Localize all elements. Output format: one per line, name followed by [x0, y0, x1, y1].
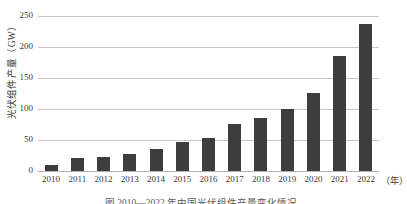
- bar[interactable]: [202, 138, 215, 171]
- bar[interactable]: [333, 56, 346, 171]
- x-tick-label: 2016: [195, 174, 221, 187]
- bar[interactable]: [359, 24, 372, 171]
- bar-slot: [248, 16, 274, 171]
- plot-area: 250 200 150 100 50 0: [38, 16, 379, 171]
- x-tick-label: 2013: [117, 174, 143, 187]
- bar-slot: [222, 16, 248, 171]
- figure-caption-text: 图 2010—2022 年中国光伏组件产量变化情况: [0, 198, 402, 204]
- y-tick-label: 250: [20, 10, 34, 20]
- x-tick-label: 2021: [327, 174, 353, 187]
- bar-slot: [38, 16, 64, 171]
- bar[interactable]: [71, 158, 84, 171]
- bar-slot: [327, 16, 353, 171]
- bar[interactable]: [254, 118, 267, 171]
- x-tick-label: 2014: [143, 174, 169, 187]
- bar[interactable]: [228, 124, 241, 171]
- bar[interactable]: [45, 165, 58, 171]
- x-axis-labels: 2010 2011 2012 2013 2014 2015 2016 2017 …: [38, 174, 379, 187]
- x-tick-label: 2020: [300, 174, 326, 187]
- y-tick-label: 50: [24, 134, 33, 144]
- bar[interactable]: [123, 154, 136, 171]
- bar-slot: [300, 16, 326, 171]
- x-tick-label: 2022: [353, 174, 379, 187]
- x-tick-label: 2017: [222, 174, 248, 187]
- x-axis-line: [38, 171, 379, 172]
- y-tick-label: 100: [20, 103, 34, 113]
- y-tick-label: 200: [20, 41, 34, 51]
- bar-slot: [353, 16, 379, 171]
- x-tick-label: 2018: [248, 174, 274, 187]
- y-tick-label: 0: [29, 165, 34, 175]
- x-tick-label: 2010: [38, 174, 64, 187]
- bar-slot: [117, 16, 143, 171]
- y-tick-label: 150: [20, 72, 34, 82]
- x-tick-label: 2012: [90, 174, 116, 187]
- bar[interactable]: [150, 149, 163, 171]
- bar-slot: [169, 16, 195, 171]
- bar-slot: [195, 16, 221, 171]
- y-axis-title: 光伏组件产量（GW）: [4, 5, 18, 135]
- x-tick-label: 2015: [169, 174, 195, 187]
- bar-slot: [274, 16, 300, 171]
- x-tick-label: 2011: [64, 174, 90, 187]
- bar-slot: [143, 16, 169, 171]
- bar[interactable]: [307, 93, 320, 171]
- figure-caption: 图 2010—2022 年中国光伏组件产量变化情况: [0, 198, 402, 204]
- x-axis-unit-label: （年）: [381, 174, 407, 187]
- bar-slot: [64, 16, 90, 171]
- bar[interactable]: [281, 109, 294, 171]
- bar-slot: [90, 16, 116, 171]
- x-tick-label: 2019: [274, 174, 300, 187]
- bar[interactable]: [176, 142, 189, 171]
- bar-series: [38, 16, 379, 171]
- bar[interactable]: [97, 157, 110, 171]
